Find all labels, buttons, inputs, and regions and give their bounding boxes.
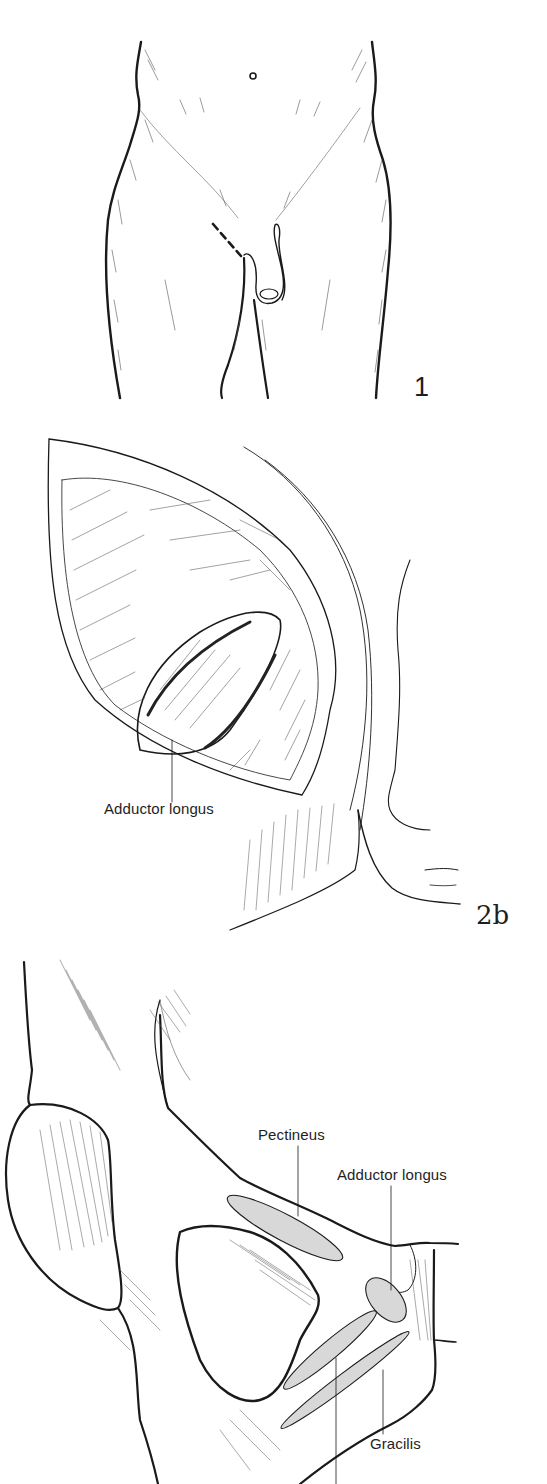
figure-number-2b: 2b <box>476 900 509 930</box>
pubic-bone-illustration <box>0 940 547 1484</box>
figure-3-pubic-bone-attachments: Pectineus Adductor longus Gracilis <box>0 940 547 1484</box>
figure-1-anterior-view: 1 <box>0 0 547 410</box>
figure-2b-surgical-exposure: Adductor longus 2b <box>0 410 547 940</box>
label-pectineus: Pectineus <box>258 1126 325 1143</box>
anterior-torso-illustration <box>0 0 547 410</box>
figure-number-1: 1 <box>414 372 429 403</box>
label-gracilis: Gracilis <box>370 1435 421 1452</box>
surgical-exposure-illustration <box>0 410 547 940</box>
label-adductor-longus-fig3: Adductor longus <box>337 1166 447 1183</box>
label-adductor-longus-fig2b: Adductor longus <box>104 800 214 817</box>
